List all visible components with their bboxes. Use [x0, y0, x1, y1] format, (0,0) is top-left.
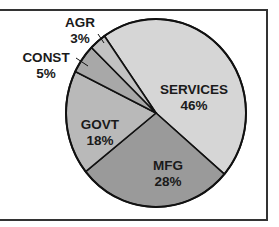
slice-value-agr: 3% [70, 31, 90, 46]
slice-label-const: CONST [22, 50, 70, 65]
slice-value-const: 5% [36, 66, 56, 81]
slice-label-agr: AGR [65, 15, 95, 30]
slice-label-services: SERVICES [160, 82, 228, 97]
slice-value-services: 46% [180, 98, 207, 113]
slice-value-mfg: 28% [154, 174, 181, 189]
slice-value-govt: 18% [86, 133, 113, 148]
slice-label-govt: GOVT [81, 117, 120, 132]
pie-chart: SERVICES 46% MFG 28% GOVT 18% CONST 5% A… [0, 0, 279, 227]
slice-label-mfg: MFG [153, 158, 183, 173]
